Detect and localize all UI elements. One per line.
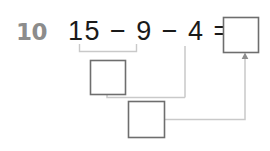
second-step-answer-box[interactable]: [129, 102, 165, 138]
first-step-answer-box[interactable]: [91, 61, 126, 95]
arrowhead-icon: [242, 53, 249, 60]
connector-second-box-to-answer-box: [164, 53, 248, 120]
final-answer-box[interactable]: [224, 18, 259, 53]
worksheet-problem: 10 15 − 9 − 4 =: [0, 0, 270, 151]
number-bond-diagram: [0, 0, 270, 151]
bracket-under-first-subtraction: [80, 44, 137, 52]
